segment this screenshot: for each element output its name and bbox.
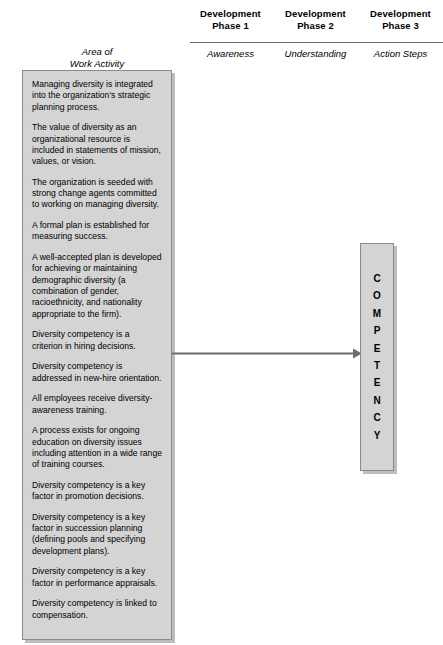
activity-item: Diversity competency is a key factor in …	[32, 566, 162, 589]
activity-item: Managing diversity is integrated into th…	[32, 79, 162, 113]
activity-item: The organization is seeded with strong c…	[32, 177, 162, 211]
competency-box: COMPETENCY	[360, 243, 394, 471]
phase-subtitle-1: Awareness	[188, 48, 273, 60]
competency-letter: C	[373, 409, 380, 426]
phase-title-3: DevelopmentPhase 3	[358, 8, 443, 31]
phase-title-2: DevelopmentPhase 2	[273, 8, 358, 31]
activity-item: A formal plan is established for measuri…	[32, 220, 162, 243]
phase-title-1: DevelopmentPhase 1	[188, 8, 273, 31]
competency-letter: M	[373, 305, 381, 322]
competency-letter: E	[374, 340, 381, 357]
activity-item: Diversity competency is a key factor in …	[32, 512, 162, 557]
activity-item: A well-accepted plan is developed for ac…	[32, 252, 162, 320]
phase-column-3: DevelopmentPhase 3	[358, 8, 443, 31]
competency-letter: T	[374, 357, 380, 374]
competency-letter: N	[373, 392, 380, 409]
activity-item: The value of diversity as an organizatio…	[32, 122, 162, 167]
competency-letter: P	[374, 322, 381, 339]
competency-letter: O	[373, 287, 381, 304]
competency-letter: E	[374, 374, 381, 391]
area-of-work-activity-label: Area ofWork Activity	[22, 46, 172, 70]
phase-column-1: DevelopmentPhase 1	[188, 8, 273, 31]
header-divider-rule	[190, 42, 443, 43]
activity-item: Diversity competency is a key factor in …	[32, 480, 162, 503]
competency-letter: Y	[374, 427, 381, 444]
activity-item: Diversity competency is a criterion in h…	[32, 329, 162, 352]
activity-item: A process exists for ongoing education o…	[32, 425, 162, 470]
phase-column-2: DevelopmentPhase 2	[273, 8, 358, 31]
phase-header-row: DevelopmentPhase 1 DevelopmentPhase 2 De…	[188, 8, 443, 31]
activity-item: Diversity competency is linked to compen…	[32, 598, 162, 621]
phase-subtitle-2: Understanding	[273, 48, 358, 60]
work-activity-box: Managing diversity is integrated into th…	[22, 70, 172, 640]
activity-item: All employees receive diversity-awarenes…	[32, 393, 162, 416]
phase-subtitle-3: Action Steps	[358, 48, 443, 60]
flow-arrow-icon	[172, 347, 362, 360]
competency-letter: C	[373, 270, 380, 287]
phase-subtitle-row: Awareness Understanding Action Steps	[188, 48, 443, 60]
activity-item: Diversity competency is addressed in new…	[32, 361, 162, 384]
